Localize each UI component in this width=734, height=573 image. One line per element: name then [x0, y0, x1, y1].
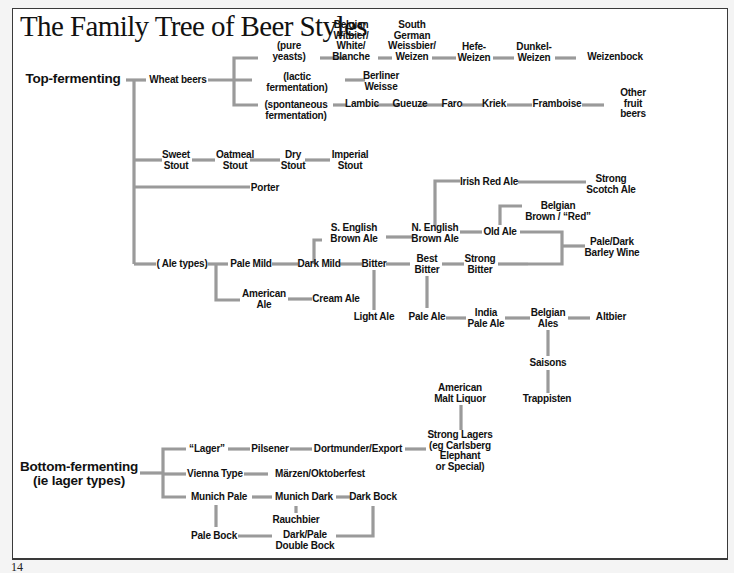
node-wheat-beers: Wheat beers [149, 75, 206, 86]
node-berliner-weisse: Berliner Weisse [363, 71, 399, 92]
node-dunkel-weizen: Dunkel- Weizen [516, 42, 551, 63]
node-sweet-stout: Sweet Stout [162, 150, 190, 171]
node-framboise: Framboise [533, 99, 582, 110]
node-lambic: Lambic [345, 99, 379, 110]
node-dark-mild: Dark Mild [297, 259, 340, 270]
node-other-fruit-beers: Other fruit beers [620, 88, 646, 120]
node-lactic-fermentation: (lactic fermentation) [266, 72, 327, 93]
node-dark-bock: Dark Bock [349, 492, 397, 503]
node-pure-yeasts: (pure yeasts) [272, 41, 305, 62]
node-pale-ale: Pale Ale [409, 312, 446, 323]
node-faro: Faro [442, 99, 463, 110]
node-munich-pale: Munich Pale [191, 492, 247, 503]
node-dortmunder-export: Dortmunder/Export [314, 444, 402, 455]
node-strong-bitter: Strong Bitter [464, 254, 495, 275]
node-belgian-ales: Belgian Ales [531, 308, 566, 329]
node-top-fermenting: Top-fermenting [25, 72, 120, 86]
node-munich-dark: Munich Dark [275, 492, 333, 503]
node-american-malt-liquor: American Malt Liquor [434, 383, 486, 404]
node-cream-ale: Cream Ale [312, 294, 359, 305]
node-strong-scotch-ale: Strong Scotch Ale [586, 174, 635, 195]
node-irish-red-ale: Irish Red Ale [460, 177, 518, 188]
node-strong-lagers: Strong Lagers (eg Carlsberg Elephant or … [427, 430, 492, 472]
node-s-english-brown-ale: S. English Brown Ale [330, 223, 377, 244]
node-barley-wine: Pale/Dark Barley Wine [585, 237, 640, 258]
node-best-bitter: Best Bitter [415, 254, 440, 275]
node-porter: Porter [251, 183, 279, 194]
node-dark-pale-double-bock: Dark/Pale Double Bock [276, 530, 335, 551]
node-trappisten: Trappisten [523, 394, 572, 405]
node-vienna-type: Vienna Type [187, 469, 243, 480]
node-ale-types: ( Ale types) [156, 259, 207, 270]
node-bottom-fermenting: Bottom-fermenting (ie lager types) [20, 460, 138, 488]
node-lager: “Lager” [189, 444, 225, 455]
node-pale-mild: Pale Mild [230, 259, 272, 270]
node-weizenbock: Weizenbock [587, 52, 643, 63]
node-n-english-brown-ale: N. English Brown Ale [411, 223, 458, 244]
node-american-ale: American Ale [242, 289, 286, 310]
node-kriek: Kriek [482, 99, 506, 110]
node-imperial-stout: Imperial Stout [332, 150, 369, 171]
node-belgian-brown-red: Belgian Brown / “Red” [525, 201, 591, 222]
node-india-pale-ale: India Pale Ale [468, 308, 505, 329]
node-spontaneous-fermentation: (spontaneous fermentation) [264, 100, 327, 121]
node-south-german-weizen: South German Weissbier/ Weizen [388, 20, 436, 62]
node-hefe-weizen: Hefe- Weizen [457, 42, 490, 63]
node-altbier: Altbier [596, 312, 626, 323]
page-number: 14 [11, 560, 23, 573]
node-pale-bock: Pale Bock [191, 531, 237, 542]
node-bitter: Bitter [362, 259, 387, 270]
node-pilsener: Pilsener [251, 444, 288, 455]
node-dry-stout: Dry Stout [281, 150, 306, 171]
node-marzen-oktoberfest: Märzen/Oktoberfest [275, 469, 365, 480]
node-light-ale: Light Ale [354, 312, 395, 323]
node-oatmeal-stout: Oatmeal Stout [216, 150, 254, 171]
node-old-ale: Old Ale [483, 227, 516, 238]
node-rauchbier: Rauchbier [272, 515, 319, 526]
node-belgian-witbier: Belgian Witbier/ White/ Blanche [332, 20, 370, 62]
node-gueuze: Gueuze [393, 99, 428, 110]
node-saisons: Saisons [530, 358, 567, 369]
